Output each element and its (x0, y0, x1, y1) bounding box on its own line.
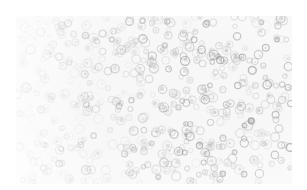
cell-microscopy-image (16, 16, 292, 184)
cell-field (16, 16, 292, 184)
